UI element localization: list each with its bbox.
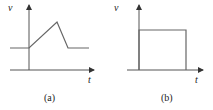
panel-a: v t (a) [8,2,94,104]
y-label-a: v [8,2,13,13]
waveform-b [139,30,186,70]
y-label-b: v [114,2,119,13]
figure: v t (a) v t (b) [0,0,213,110]
waveform-a [10,22,89,48]
caption-b: (b) [161,92,173,104]
caption-a: (a) [44,92,55,104]
x-label-b: t [195,74,198,85]
x-label-a: t [88,74,91,85]
panel-b: v t (b) [114,2,203,104]
